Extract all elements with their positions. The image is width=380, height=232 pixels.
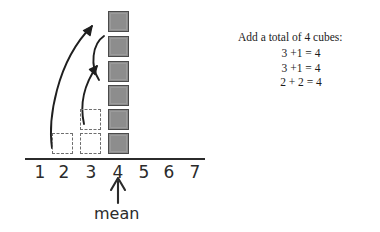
mean-label: mean — [94, 204, 139, 223]
tick-label-5: 5 — [134, 162, 154, 182]
cube-stack-item — [108, 109, 129, 130]
equation-row: 3 +1 = 4 — [236, 61, 380, 76]
diagram-area: 1 2 3 4 5 6 7 mean — [0, 0, 230, 232]
number-line — [25, 158, 205, 160]
cube-stack-item — [108, 36, 129, 57]
arrow-bracket-curve-icon — [93, 36, 104, 80]
tick-label-6: 6 — [159, 162, 179, 182]
tick-label-1: 1 — [30, 162, 50, 182]
tick-label-7: 7 — [185, 162, 205, 182]
cube-stack-item — [108, 61, 129, 82]
ghost-cube-column-2-level-1 — [52, 133, 73, 154]
notes-block: Add a total of 4 cubes: 3 +1 = 4 3 +1 = … — [236, 30, 380, 90]
notes-caption: Add a total of 4 cubes: — [236, 30, 380, 44]
tick-label-4: 4 — [108, 162, 128, 182]
mean-leveling-diagram-page: 1 2 3 4 5 6 7 mean Add a total of 4 cube… — [0, 0, 380, 232]
ghost-cube-column-3-level-2 — [80, 109, 101, 130]
equation-list: 3 +1 = 4 3 +1 = 4 2 + 2 = 4 — [236, 46, 380, 90]
cube-stack-item — [108, 85, 129, 106]
equation-row: 2 + 2 = 4 — [236, 75, 380, 90]
cube-stack-item — [108, 133, 129, 154]
tick-label-3: 3 — [81, 162, 101, 182]
cube-stack-item — [108, 11, 129, 32]
ghost-cube-column-3-level-1 — [80, 133, 101, 154]
tick-label-2: 2 — [54, 162, 74, 182]
equation-row: 3 +1 = 4 — [236, 46, 380, 61]
